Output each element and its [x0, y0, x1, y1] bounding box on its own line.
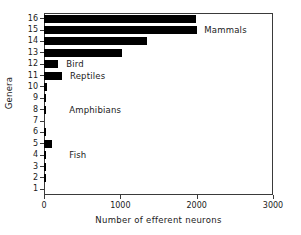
plot-annotation: Fish: [69, 150, 86, 160]
bar: [44, 49, 122, 57]
plot-annotation: Reptiles: [70, 71, 105, 81]
plot-annotation: Bird: [66, 59, 84, 69]
bar: [44, 26, 197, 34]
x-axis-title: Number of efferent neurons: [44, 215, 273, 225]
y-axis-tick: [40, 121, 44, 122]
bar: [44, 163, 46, 171]
x-axis-tick-label: 1000: [100, 201, 140, 210]
bar: [44, 174, 46, 182]
x-axis-tick-label: 0: [24, 201, 64, 210]
y-axis-tick: [40, 189, 44, 190]
bar: [44, 106, 46, 114]
y-axis-tick-label: 11: [8, 72, 38, 80]
x-axis-tick: [120, 195, 121, 199]
y-axis-tick-label: 10: [8, 83, 38, 91]
y-axis-tick-label: 2: [8, 174, 38, 182]
bar: [44, 140, 52, 148]
bar: [44, 128, 46, 136]
bar: [44, 83, 47, 91]
y-axis-tick-label: 8: [8, 106, 38, 114]
y-axis-tick-label: 16: [8, 15, 38, 23]
y-axis-tick-label: 4: [8, 151, 38, 159]
y-axis-tick-label: 15: [8, 26, 38, 34]
x-axis-tick: [273, 195, 274, 199]
plot-annotation: Mammals: [204, 25, 247, 35]
y-axis-tick-label: 13: [8, 49, 38, 57]
y-axis-tick-label: 14: [8, 37, 38, 45]
bar: [44, 151, 46, 159]
x-axis-tick-label: 2000: [177, 201, 217, 210]
bar: [44, 72, 62, 80]
y-axis-tick-label: 6: [8, 128, 38, 136]
bar: [44, 94, 46, 102]
y-axis-tick-label: 12: [8, 60, 38, 68]
y-axis-tick-label: 7: [8, 117, 38, 125]
bar: [44, 60, 58, 68]
plot-annotation: Amphibians: [69, 105, 121, 115]
x-axis-tick-label: 3000: [253, 201, 293, 210]
y-axis-tick-label: 5: [8, 140, 38, 148]
x-axis-tick: [197, 195, 198, 199]
bar-chart-figure: Genera 12345678910111213141516 010002000…: [0, 0, 301, 235]
y-axis-tick-label: 9: [8, 94, 38, 102]
y-axis-tick-label: 1: [8, 185, 38, 193]
bar: [44, 15, 196, 23]
x-axis-tick: [44, 195, 45, 199]
y-axis-tick-label: 3: [8, 163, 38, 171]
bar: [44, 37, 147, 45]
